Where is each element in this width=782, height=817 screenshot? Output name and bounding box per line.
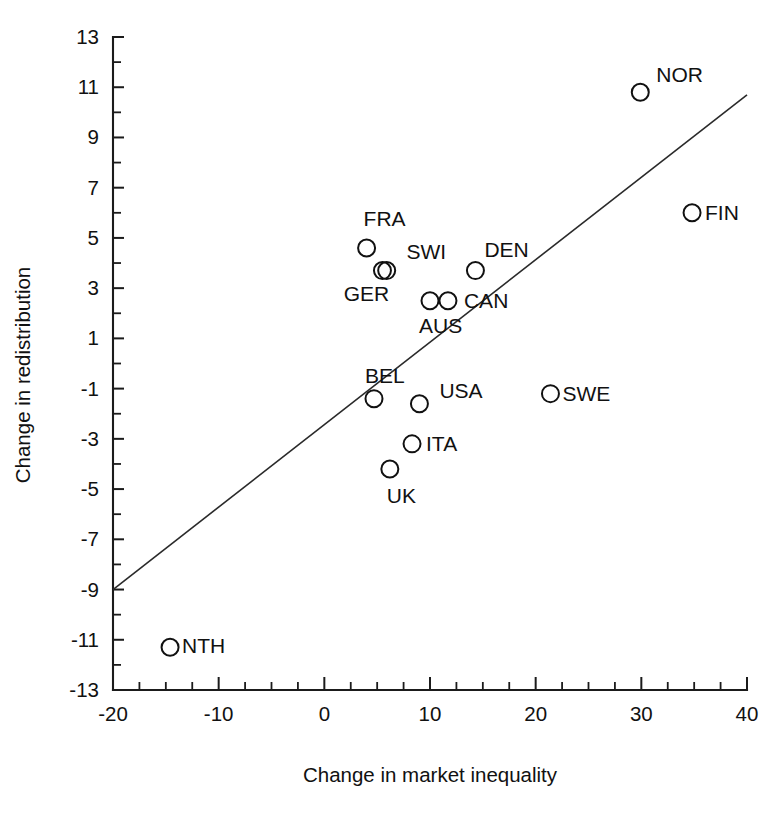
- data-point-fin: [684, 204, 701, 221]
- data-point-nth: [162, 639, 179, 656]
- data-point-usa: [411, 395, 428, 412]
- scatter-chart: -13-11-9-7-5-3-1135791113 -20-1001020304…: [0, 0, 782, 817]
- plot-canvas: -13-11-9-7-5-3-1135791113 -20-1001020304…: [0, 0, 782, 817]
- y-tick-label: 1: [88, 326, 99, 349]
- data-point-label-usa: USA: [439, 379, 482, 402]
- data-point-swi: [374, 262, 391, 279]
- data-point-label-ita: ITA: [426, 432, 457, 455]
- data-point-bel: [365, 390, 382, 407]
- data-point-label-fin: FIN: [705, 201, 739, 224]
- data-point-label-den: DEN: [484, 238, 528, 261]
- data-point-label-swe: SWE: [562, 382, 610, 405]
- data-point-fra: [358, 239, 375, 256]
- x-axis-title: Change in market inequality: [303, 763, 558, 786]
- data-point-swe: [542, 385, 559, 402]
- y-tick-label: 9: [88, 125, 99, 148]
- y-tick-label: -7: [81, 527, 99, 550]
- data-point-labels: NORFINFRASWIGERDENAUSCANBELUSASWEITAUKNT…: [182, 63, 739, 657]
- y-tick-label: 11: [78, 75, 99, 98]
- y-axis-title: Change in redistribution: [11, 267, 34, 484]
- y-tick-label: 3: [88, 276, 99, 299]
- plot-frame: [113, 37, 747, 690]
- data-point-ita: [404, 435, 421, 452]
- y-tick-label: 13: [76, 25, 99, 48]
- y-tick-label: -9: [81, 578, 99, 601]
- x-tick-label: 0: [319, 702, 330, 725]
- data-point-label-fra: FRA: [364, 207, 406, 230]
- x-tick-label: 40: [736, 702, 759, 725]
- data-point-label-ger: GER: [344, 282, 390, 305]
- x-axis-tick-labels: -20-10010203040: [98, 702, 758, 725]
- y-tick-label: -13: [69, 678, 99, 701]
- y-tick-label: -1: [81, 377, 99, 400]
- x-tick-label: -20: [98, 702, 128, 725]
- x-tick-label: 30: [630, 702, 653, 725]
- data-point-markers: [162, 84, 701, 656]
- y-axis-minor-ticks: [113, 62, 121, 665]
- data-point-uk: [381, 460, 398, 477]
- data-point-label-nor: NOR: [656, 63, 703, 86]
- data-point-label-swi: SWI: [406, 240, 446, 263]
- data-point-label-aus: AUS: [419, 314, 462, 337]
- data-point-label-uk: UK: [387, 484, 416, 507]
- data-point-aus: [422, 292, 439, 309]
- data-point-ger: [378, 262, 395, 279]
- y-tick-label: 5: [88, 226, 99, 249]
- x-tick-label: 20: [524, 702, 547, 725]
- x-tick-label: -10: [204, 702, 234, 725]
- data-point-den: [467, 262, 484, 279]
- regression-line-group: [113, 95, 747, 590]
- y-axis-tick-labels: -13-11-9-7-5-3-1135791113: [69, 25, 99, 701]
- y-tick-label: -3: [81, 427, 99, 450]
- data-point-can: [439, 292, 456, 309]
- y-tick-label: -5: [81, 477, 99, 500]
- data-point-label-can: CAN: [464, 289, 508, 312]
- x-axis-ticks: [113, 677, 747, 690]
- x-tick-label: 10: [419, 702, 442, 725]
- regression-line: [113, 95, 747, 590]
- y-tick-label: 7: [88, 176, 99, 199]
- data-point-label-nth: NTH: [182, 634, 225, 657]
- data-point-nor: [632, 84, 649, 101]
- y-tick-label: -11: [71, 628, 99, 651]
- data-point-label-bel: BEL: [365, 364, 405, 387]
